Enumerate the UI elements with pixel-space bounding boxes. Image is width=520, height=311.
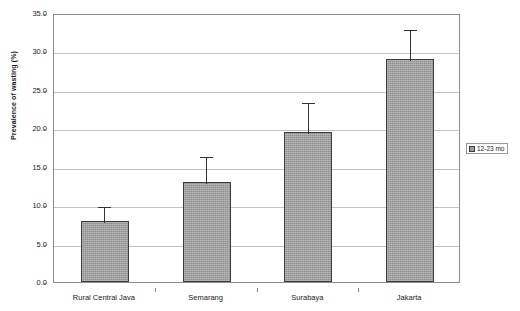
legend-swatch-icon <box>469 146 475 152</box>
y-tick-label: 35.0 <box>3 10 47 18</box>
x-tick-mark <box>358 288 359 292</box>
error-bar-cap <box>404 30 417 31</box>
error-bar-line <box>308 103 309 134</box>
bar-group <box>183 15 231 282</box>
error-bar-cap <box>302 103 315 104</box>
y-tick-label: 10.0 <box>3 202 47 210</box>
legend: 12-23 mo <box>466 143 508 154</box>
y-tick-label: 0.0 <box>3 279 47 287</box>
y-tick-mark <box>43 206 47 207</box>
y-tick-mark <box>43 52 47 53</box>
y-axis-ticks: 0.05.010.015.020.025.030.035.0 <box>0 14 47 283</box>
y-tick-label: 5.0 <box>3 241 47 249</box>
bar <box>386 59 434 282</box>
y-tick-mark <box>43 91 47 92</box>
bar-group <box>386 15 434 282</box>
error-bar-line <box>410 30 411 61</box>
y-tick-mark <box>43 283 47 284</box>
y-tick-mark <box>43 168 47 169</box>
x-tick-mark <box>155 288 156 292</box>
y-tick-mark <box>43 245 47 246</box>
y-tick-mark <box>43 14 47 15</box>
bar <box>183 182 231 282</box>
y-tick-label: 25.0 <box>3 87 47 95</box>
x-tick-label: Semarang <box>155 293 257 303</box>
error-bar-cap <box>98 207 111 208</box>
x-tick-label: Jakarta <box>358 293 460 303</box>
y-tick-mark <box>43 129 47 130</box>
plot-area <box>53 14 460 283</box>
x-tick-label: Surabaya <box>257 293 359 303</box>
y-tick-label: 20.0 <box>3 125 47 133</box>
y-tick-label: 15.0 <box>3 164 47 172</box>
error-bar-cap <box>200 157 213 158</box>
bar-group <box>81 15 129 282</box>
y-tick-label: 30.0 <box>3 48 47 56</box>
x-tick-label: Rural Central Java <box>53 293 155 303</box>
bar <box>81 221 129 282</box>
error-bar-line <box>104 207 105 222</box>
x-tick-mark <box>257 288 258 292</box>
bar-group <box>284 15 332 282</box>
x-axis-labels: Rural Central JavaSemarangSurabayaJakart… <box>53 288 460 304</box>
legend-label: 12-23 mo <box>477 145 504 152</box>
bar <box>284 132 332 282</box>
error-bar-line <box>206 157 207 184</box>
bar-chart-figure: Prevalence of wasting (%) 0.05.010.015.0… <box>0 0 520 311</box>
